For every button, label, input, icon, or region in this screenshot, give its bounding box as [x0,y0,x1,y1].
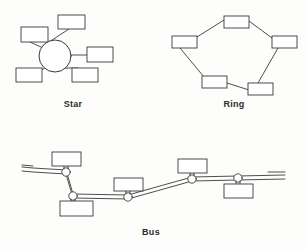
bus-terminator-left-stub [22,165,33,166]
ring-link-top-to-left [197,20,224,37]
bus-tap-4 [188,175,196,183]
ring-link-bottomleft-to-bottomright [227,83,249,90]
network-topology-figure: Star Ring Bus [0,0,306,250]
ring-topology-diagram [172,16,297,95]
star-node-right [87,47,113,62]
ring-diagram-label: Ring [223,99,244,109]
bus-tap-1 [62,168,70,176]
bus-node-3 [114,178,143,191]
star-spoke-top-left [30,42,43,48]
ring-node-left [172,36,197,48]
ring-links [180,20,278,90]
topology-canvas [0,0,306,250]
bus-tap-3 [124,193,132,201]
bus-node-1 [52,152,81,166]
star-diagram-label: Star [64,99,83,109]
ring-node-right [272,36,297,48]
bus-node-4 [178,159,207,173]
ring-link-top-to-right [249,21,272,38]
bus-diagram-label: Bus [142,227,160,237]
bus-drop-stems [64,166,240,201]
bus-tap-5 [234,174,242,182]
ring-node-bottom-right [248,83,273,95]
star-hub-node [39,40,71,72]
star-node-bottom-right [72,68,98,82]
ring-link-right-to-bottomright [258,48,278,83]
ring-node-top [224,16,249,28]
bus-tap-points [62,168,242,201]
bus-node-5 [224,184,253,198]
star-node-bottom-left [16,68,42,82]
ring-link-left-to-bottomleft [180,48,204,77]
star-node-top [58,15,85,29]
bus-node-2 [60,201,93,216]
ring-node-bottom-left [202,76,227,88]
star-topology-diagram [16,15,113,82]
star-node-top-left [21,27,48,42]
bus-topology-diagram [22,152,285,216]
bus-tap-2 [69,192,77,200]
